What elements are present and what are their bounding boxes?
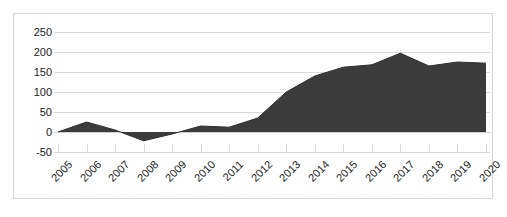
y-tick-label: -50	[36, 146, 52, 158]
y-tick-label: 250	[34, 26, 52, 38]
y-tick-label: 150	[34, 66, 52, 78]
y-tick-label: 0	[46, 126, 52, 138]
x-axis: 2005200620072008200920102011201220132014…	[54, 154, 490, 204]
chart-frame: 250200150100500-50 200520062007200820092…	[13, 13, 493, 199]
area-fill-path	[58, 53, 486, 141]
y-tick-label: 200	[34, 46, 52, 58]
y-tick-label: 100	[34, 86, 52, 98]
y-axis: 250200150100500-50	[14, 14, 52, 200]
chart-plot-wrapper: 250200150100500-50 200520062007200820092…	[14, 14, 492, 198]
y-tick-label: 50	[40, 106, 52, 118]
